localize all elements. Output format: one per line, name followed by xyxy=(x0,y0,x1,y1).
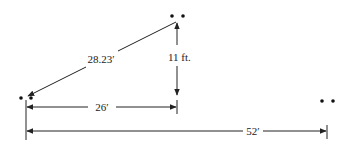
dot xyxy=(19,96,23,100)
right-point-marker xyxy=(320,99,335,103)
long-horizontal-label: 52′ xyxy=(246,125,259,137)
dot xyxy=(331,99,335,103)
hypotenuse-label: 28.23′ xyxy=(87,53,114,65)
left-point-marker xyxy=(19,96,33,100)
short-horizontal-dimension: 26′ xyxy=(27,101,176,113)
hypotenuse-dimension: 28.23′ xyxy=(28,22,176,96)
hypotenuse-line-lower xyxy=(28,67,86,96)
long-horizontal-dimension: 52′ xyxy=(27,125,326,137)
top-point-marker xyxy=(170,14,185,18)
height-dimension: 11 ft. xyxy=(168,23,191,95)
dot xyxy=(29,96,33,100)
dot xyxy=(170,14,174,18)
distance-diagram: 28.23′ 11 ft. 26′ 52′ xyxy=(0,0,354,151)
height-label: 11 ft. xyxy=(168,51,191,63)
short-horizontal-label: 26′ xyxy=(95,101,108,113)
dot xyxy=(320,99,324,103)
dot xyxy=(181,14,185,18)
hypotenuse-line-upper xyxy=(118,22,176,51)
